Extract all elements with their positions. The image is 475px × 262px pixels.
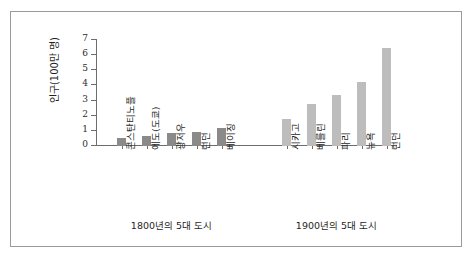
y-tick-label-wrap: 1 xyxy=(64,125,88,135)
chart-figure: 인구(100만 명) 76543210 콘스탄티노플에도(도쿄)광저우런던베이징… xyxy=(0,0,475,262)
x-tick-mark xyxy=(312,146,313,149)
x-tick-mark xyxy=(287,146,288,149)
x-category-label: 시카고 xyxy=(291,123,301,150)
x-category-label: 런던 xyxy=(201,132,211,150)
x-tick-mark xyxy=(337,146,338,149)
x-category-label: 런던 xyxy=(391,132,401,150)
y-tick-label: 0 xyxy=(66,140,88,149)
y-tick-label: 7 xyxy=(66,34,88,43)
y-tick-label-wrap: 0 xyxy=(64,140,88,150)
x-tick-mark xyxy=(122,146,123,149)
y-tick-label-wrap: 2 xyxy=(64,110,88,120)
y-tick-label-wrap: 6 xyxy=(64,49,88,59)
x-category-label: 베를린 xyxy=(316,123,326,150)
x-category-label: 에도(도쿄) xyxy=(151,107,161,150)
y-tick-label: 6 xyxy=(66,49,88,58)
x-tick-mark xyxy=(172,146,173,149)
y-tick-label-wrap: 5 xyxy=(64,64,88,74)
x-category-label: 뉴욕 xyxy=(366,132,376,150)
y-tick-label: 2 xyxy=(66,110,88,119)
plot-area xyxy=(97,40,397,146)
y-axis-title: 인구(100만 명) xyxy=(46,10,61,130)
y-tick-label-wrap: 4 xyxy=(64,79,88,89)
x-category-label: 베이징 xyxy=(226,123,236,150)
x-tick-mark xyxy=(387,146,388,149)
y-tick-label: 1 xyxy=(66,125,88,134)
y-tick-label-wrap: 3 xyxy=(64,95,88,105)
group-caption-1900: 1900년의 5대 도시 xyxy=(277,218,397,232)
x-category-label: 파리 xyxy=(341,132,351,150)
x-tick-mark xyxy=(222,146,223,149)
x-category-label: 콘스탄티노플 xyxy=(126,96,136,150)
y-tick-label: 5 xyxy=(66,64,88,73)
x-category-label: 광저우 xyxy=(176,123,186,150)
x-tick-mark xyxy=(362,146,363,149)
x-tick-mark xyxy=(197,146,198,149)
y-tick-label: 3 xyxy=(66,95,88,104)
y-tick-label: 4 xyxy=(66,79,88,88)
y-tick-label-wrap: 7 xyxy=(64,34,88,44)
group-caption-1800: 1800년의 5대 도시 xyxy=(112,218,232,232)
x-tick-mark xyxy=(147,146,148,149)
